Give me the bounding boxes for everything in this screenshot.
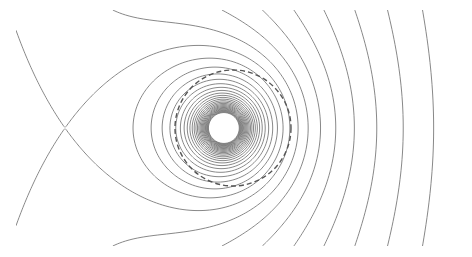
equipotential-contour-plot bbox=[0, 0, 472, 257]
